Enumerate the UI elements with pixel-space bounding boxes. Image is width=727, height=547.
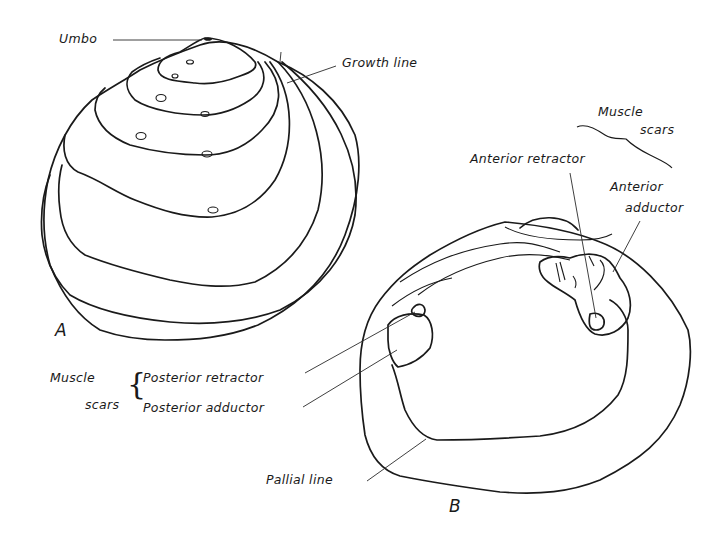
anterior-adductor-inner bbox=[594, 260, 604, 290]
anterior-scar-striation bbox=[573, 276, 576, 288]
anterior-scar-striation bbox=[589, 256, 594, 266]
anterior-adductor-scar bbox=[539, 254, 630, 335]
shell-drawings bbox=[0, 0, 727, 547]
shell-a-spot bbox=[172, 74, 178, 78]
panel-letter-b: B bbox=[449, 498, 461, 515]
shell-a-outer-margin bbox=[44, 42, 359, 340]
anterior-retractor-scar bbox=[589, 313, 604, 330]
shell-b-outer-margin bbox=[360, 222, 690, 493]
shell-a-growth-ring-3 bbox=[95, 62, 279, 155]
label-anterior-retractor: Anterior retractor bbox=[470, 153, 585, 166]
posterior-adductor-leader bbox=[303, 350, 397, 407]
panel-letter-a: A bbox=[55, 322, 67, 339]
label-muscle-scars-top-1: Muscle bbox=[598, 106, 643, 119]
shell-a-umbo-tip bbox=[204, 37, 212, 41]
label-growth-line: Growth line bbox=[342, 57, 417, 70]
label-posterior-adductor: Posterior adductor bbox=[143, 402, 264, 415]
shell-a-spot bbox=[136, 133, 146, 140]
label-muscle-scars-left-2: scars bbox=[85, 399, 119, 412]
label-anterior-adductor-2: adductor bbox=[625, 202, 683, 215]
shell-a-tick-mark bbox=[280, 52, 281, 62]
shell-b-nacre-line bbox=[418, 255, 570, 295]
label-muscle-scars-left-1: Muscle bbox=[50, 372, 95, 385]
shell-a-drawing bbox=[41, 37, 358, 340]
shell-a-spot bbox=[156, 95, 166, 102]
shell-a-spot bbox=[187, 60, 194, 64]
label-muscle-scars-top-2: scars bbox=[640, 124, 674, 137]
posterior-adductor-scar bbox=[388, 314, 432, 367]
shell-a-spot bbox=[208, 207, 218, 213]
anterior-retractor-leader bbox=[570, 173, 596, 318]
pallial-line bbox=[392, 300, 628, 440]
anterior-scar-striation bbox=[560, 262, 565, 280]
label-anterior-adductor-1: Anterior bbox=[610, 181, 663, 194]
label-posterior-retractor: Posterior retractor bbox=[143, 372, 263, 385]
label-umbo: Umbo bbox=[59, 33, 97, 46]
shell-b-nacre-line bbox=[400, 243, 560, 282]
shell-figure: Umbo Growth line A Muscle scars Anterior… bbox=[0, 0, 727, 547]
anterior-scar-striation bbox=[556, 263, 560, 282]
anterior-adductor-leader bbox=[613, 221, 640, 272]
shell-a-growth-ring-4 bbox=[64, 62, 289, 217]
label-pallial-line: Pallial line bbox=[266, 474, 333, 487]
